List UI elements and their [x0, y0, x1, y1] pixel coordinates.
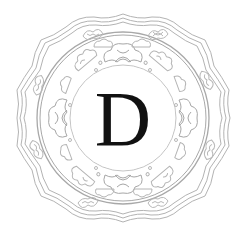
drop-cap-letter: D — [71, 65, 175, 169]
